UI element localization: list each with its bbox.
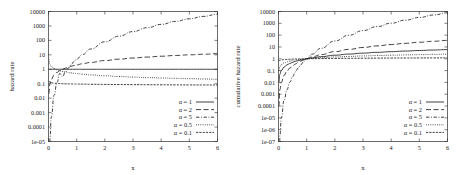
x-tick-label: 4 bbox=[390, 144, 393, 151]
y-tick-label: 0.01 bbox=[264, 79, 275, 86]
y-tick-label: 10 bbox=[269, 43, 275, 50]
y-tick-label: 10000 bbox=[260, 8, 275, 15]
y-tick-label: 1000 bbox=[33, 22, 45, 29]
figure-container: 1000010001001010.10.010.0010.00011e-05 0… bbox=[0, 0, 460, 175]
x-axis-ticks-right: 0123456 bbox=[277, 12, 449, 151]
legend-label: α = 2 bbox=[179, 106, 192, 113]
y-tick-label: 0.001 bbox=[261, 90, 275, 97]
y-axis-label-left: hazard rate bbox=[8, 62, 15, 92]
x-axis-label-left: x bbox=[131, 164, 135, 171]
curve-longdash bbox=[49, 54, 218, 94]
y-tick-label: 1e-07 bbox=[261, 138, 275, 145]
curve-dashdot bbox=[50, 14, 218, 141]
x-axis-ticks-left: 0123456 bbox=[47, 12, 219, 151]
y-tick-label: 1e-05 bbox=[261, 114, 275, 121]
y-tick-label: 0.1 bbox=[37, 80, 45, 87]
x-tick-label: 4 bbox=[160, 144, 163, 151]
y-tick-label: 1e-05 bbox=[31, 138, 45, 145]
legend-right: α = 1α = 2α = 5α = 0.5α = 0.1 bbox=[404, 98, 444, 135]
y-axis-label-right: cumulative hazard rate bbox=[234, 46, 241, 108]
legend-left: α = 1α = 2α = 5α = 0.5α = 0.1 bbox=[174, 98, 214, 135]
x-tick-label: 1 bbox=[75, 144, 78, 151]
x-tick-label: 3 bbox=[131, 144, 134, 151]
y-tick-label: 0.0001 bbox=[28, 123, 45, 130]
y-tick-label: 100 bbox=[36, 36, 45, 43]
curve-dotted bbox=[279, 54, 448, 70]
curve-dashdot bbox=[280, 13, 448, 142]
legend-label: α = 0.5 bbox=[174, 121, 192, 128]
cumulative-hazard-rate-chart: 1000010001001010.10.010.0010.00011e-051e… bbox=[230, 0, 460, 175]
curves-right bbox=[279, 13, 448, 142]
y-tick-label: 1000 bbox=[263, 19, 275, 26]
plot-frame-right bbox=[279, 12, 448, 142]
y-tick-label: 1 bbox=[272, 55, 275, 62]
y-tick-label: 10000 bbox=[30, 8, 45, 15]
y-tick-label: 1 bbox=[42, 65, 45, 72]
x-tick-label: 5 bbox=[418, 144, 421, 151]
x-tick-label: 3 bbox=[361, 144, 364, 151]
legend-label: α = 1 bbox=[179, 98, 192, 105]
hazard-rate-chart: 1000010001001010.10.010.0010.00011e-05 0… bbox=[0, 0, 230, 175]
cumulative-hazard-rate-plot-panel: 1000010001001010.10.010.0010.00011e-051e… bbox=[230, 0, 460, 175]
curve-finedash bbox=[49, 81, 218, 85]
legend-label: α = 0.5 bbox=[404, 121, 422, 128]
x-axis-label-right: x bbox=[361, 164, 365, 171]
x-tick-label: 6 bbox=[446, 144, 449, 151]
legend-label: α = 5 bbox=[179, 113, 192, 120]
curves-left bbox=[49, 14, 218, 141]
x-tick-label: 5 bbox=[188, 144, 191, 151]
y-tick-label: 100 bbox=[266, 31, 275, 38]
y-tick-label: 10 bbox=[39, 51, 45, 58]
y-tick-label: 0.0001 bbox=[258, 102, 275, 109]
x-tick-label: 2 bbox=[103, 144, 106, 151]
curve-solid bbox=[279, 50, 448, 83]
x-tick-label: 1 bbox=[305, 144, 308, 151]
legend-label: α = 2 bbox=[409, 106, 422, 113]
plot-frame-left bbox=[49, 12, 218, 142]
y-tick-label: 0.1 bbox=[267, 67, 275, 74]
y-tick-label: 0.01 bbox=[34, 94, 45, 101]
y-tick-label: 0.001 bbox=[31, 109, 45, 116]
legend-label: α = 0.1 bbox=[404, 129, 422, 136]
legend-label: α = 5 bbox=[409, 113, 422, 120]
x-tick-label: 0 bbox=[277, 144, 280, 151]
hazard-rate-plot-panel: 1000010001001010.10.010.0010.00011e-05 0… bbox=[0, 0, 230, 175]
x-tick-label: 6 bbox=[216, 144, 219, 151]
legend-label: α = 0.1 bbox=[174, 129, 192, 136]
x-tick-label: 0 bbox=[47, 144, 50, 151]
legend-label: α = 1 bbox=[409, 98, 422, 105]
y-tick-label: 1e-06 bbox=[261, 126, 275, 133]
x-tick-label: 2 bbox=[333, 144, 336, 151]
